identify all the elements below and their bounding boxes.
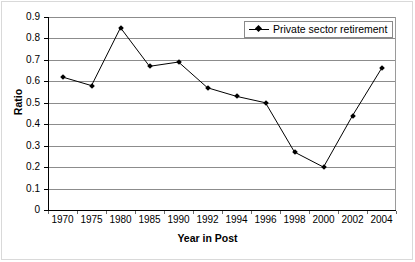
y-tick-label: 0.1 (0, 184, 40, 194)
x-tick-mark (338, 211, 339, 214)
x-tick-mark (396, 211, 397, 214)
y-tick-label: 0.9 (0, 12, 40, 22)
diamond-marker-icon (249, 25, 269, 34)
x-tick-mark (280, 211, 281, 214)
x-axis-title: Year in Post (0, 232, 415, 244)
plot-area (48, 17, 396, 210)
y-tick-label: 0.8 (0, 33, 40, 43)
x-tick-mark (251, 211, 252, 214)
y-tick-label: 0.2 (0, 162, 40, 172)
x-tick-mark (135, 211, 136, 214)
y-tick-label: 0.4 (0, 119, 40, 129)
y-tick-label: 0.7 (0, 55, 40, 65)
x-tick-mark (48, 211, 49, 214)
x-tick-mark (77, 211, 78, 214)
x-tick-mark (367, 211, 368, 214)
legend: Private sector retirement (244, 21, 393, 38)
y-axis-line (48, 17, 49, 211)
y-tick-label: 0.3 (0, 141, 40, 151)
y-tick-label: 0.6 (0, 76, 40, 86)
y-tick-label: 0.5 (0, 98, 40, 108)
x-tick-mark (309, 211, 310, 214)
x-tick-mark (193, 211, 194, 214)
plot-right-border (395, 17, 396, 211)
x-tick-mark (106, 211, 107, 214)
x-tick-label: 2004 (362, 214, 402, 225)
x-tick-mark (222, 211, 223, 214)
line-chart: Ratio 0.90.80.70.60.50.40.30.20.10 19701… (0, 0, 415, 262)
series-line-private-sector-retirement (48, 17, 396, 210)
legend-entry-label: Private sector retirement (273, 24, 387, 35)
x-tick-mark (164, 211, 165, 214)
y-tick-label: 0 (0, 205, 40, 215)
